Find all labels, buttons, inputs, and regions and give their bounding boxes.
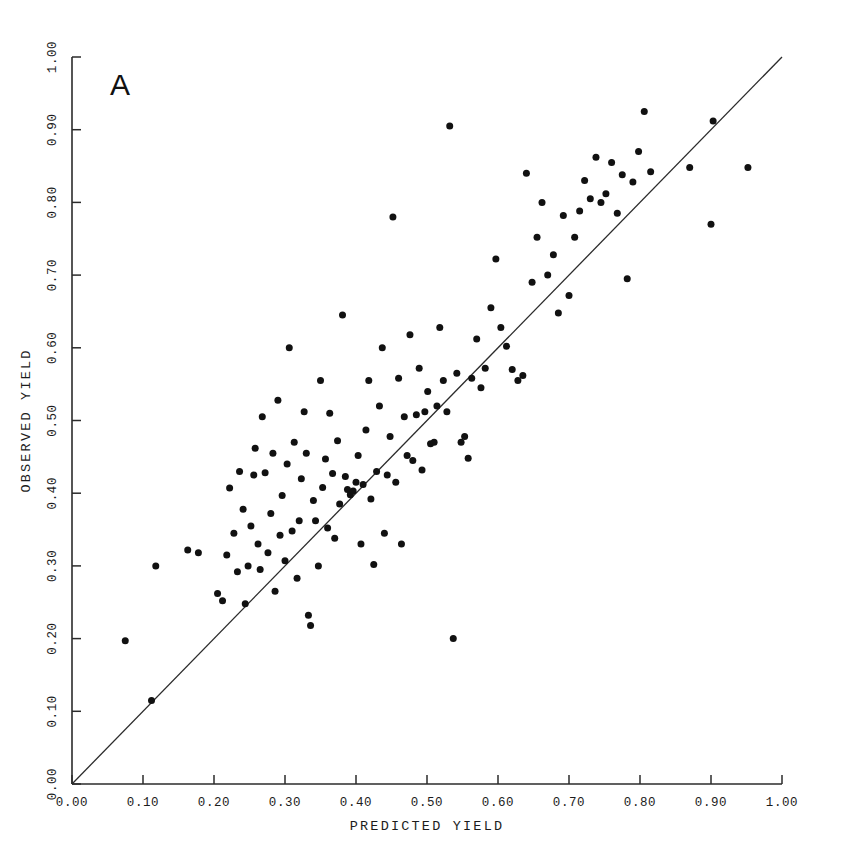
- data-point: [339, 312, 346, 319]
- data-point: [379, 344, 386, 351]
- data-point: [294, 575, 301, 582]
- data-point: [255, 541, 262, 548]
- data-point: [566, 292, 573, 299]
- data-point: [446, 123, 453, 130]
- data-point: [326, 410, 333, 417]
- x-tick-label: 0.70: [553, 796, 585, 810]
- data-point: [279, 492, 286, 499]
- data-point: [298, 475, 305, 482]
- data-point: [392, 479, 399, 486]
- data-point: [602, 190, 609, 197]
- data-point: [303, 450, 310, 457]
- data-point: [453, 370, 460, 377]
- data-point: [492, 256, 499, 263]
- data-point: [436, 324, 443, 331]
- data-point: [744, 164, 751, 171]
- data-point: [264, 549, 271, 556]
- data-point: [519, 372, 526, 379]
- data-point: [252, 445, 259, 452]
- data-point: [274, 397, 281, 404]
- y-tick-label: 0.80: [46, 186, 60, 218]
- data-point: [370, 561, 377, 568]
- data-point: [242, 600, 249, 607]
- data-point: [267, 510, 274, 517]
- data-point: [544, 272, 551, 279]
- data-point: [282, 557, 289, 564]
- data-point: [277, 532, 284, 539]
- figure-panel-a: 0.000.100.200.300.400.500.600.700.800.90…: [0, 0, 843, 847]
- y-tick-label: 0.40: [46, 477, 60, 509]
- data-point: [245, 562, 252, 569]
- data-point: [336, 501, 343, 508]
- data-point: [581, 177, 588, 184]
- data-point: [406, 331, 413, 338]
- y-tick-label: 0.90: [46, 113, 60, 145]
- data-point: [523, 170, 530, 177]
- data-point: [269, 450, 276, 457]
- data-point: [367, 496, 374, 503]
- data-point: [214, 590, 221, 597]
- data-point: [416, 365, 423, 372]
- data-point: [468, 375, 475, 382]
- data-point: [259, 413, 266, 420]
- data-point: [629, 179, 636, 186]
- data-point: [635, 148, 642, 155]
- y-tick-label: 0.50: [46, 404, 60, 436]
- data-point: [262, 469, 269, 476]
- data-point: [458, 439, 465, 446]
- y-tick-label: 1.00: [46, 41, 60, 73]
- x-tick-label: 0.80: [624, 796, 656, 810]
- x-axis-title: PREDICTED YIELD: [350, 819, 505, 834]
- x-tick-label: 0.30: [269, 796, 301, 810]
- data-point: [236, 468, 243, 475]
- data-point: [360, 481, 367, 488]
- y-axis-title: OBSERVED YIELD: [19, 348, 34, 492]
- data-point: [291, 439, 298, 446]
- data-point: [184, 546, 191, 553]
- x-tick-label: 1.00: [766, 796, 798, 810]
- data-point: [465, 455, 472, 462]
- data-point: [587, 195, 594, 202]
- data-point: [641, 108, 648, 115]
- y-tick-label: 0.30: [46, 550, 60, 582]
- data-point: [226, 485, 233, 492]
- data-point: [433, 402, 440, 409]
- data-point: [539, 199, 546, 206]
- data-point: [350, 488, 357, 495]
- data-point: [307, 622, 314, 629]
- x-tick-label: 0.00: [56, 796, 88, 810]
- data-point: [608, 159, 615, 166]
- x-tick-label: 0.50: [411, 796, 443, 810]
- data-point: [324, 525, 331, 532]
- data-point: [503, 343, 510, 350]
- data-point: [272, 588, 279, 595]
- data-point: [342, 473, 349, 480]
- data-point: [234, 568, 241, 575]
- data-point: [413, 411, 420, 418]
- data-point: [230, 530, 237, 537]
- x-tick-label: 0.90: [695, 796, 727, 810]
- x-tick-label: 0.20: [198, 796, 230, 810]
- data-point: [487, 304, 494, 311]
- data-point: [334, 437, 341, 444]
- data-point-group: [122, 108, 752, 704]
- data-point: [381, 530, 388, 537]
- x-tick-label: 0.60: [482, 796, 514, 810]
- data-point: [310, 497, 317, 504]
- y-tick-label: 0.10: [46, 695, 60, 727]
- data-point: [389, 213, 396, 220]
- data-point: [686, 164, 693, 171]
- data-point: [376, 402, 383, 409]
- data-point: [250, 472, 257, 479]
- data-point: [398, 541, 405, 548]
- data-point: [362, 426, 369, 433]
- data-point: [401, 413, 408, 420]
- data-point: [424, 388, 431, 395]
- x-tick-label: 0.40: [340, 796, 372, 810]
- y-tick-label: 0.20: [46, 622, 60, 654]
- data-point: [289, 528, 296, 535]
- data-point: [148, 697, 155, 704]
- data-point: [296, 517, 303, 524]
- data-point: [301, 408, 308, 415]
- scatter-plot: 0.000.100.200.300.400.500.600.700.800.90…: [0, 0, 843, 847]
